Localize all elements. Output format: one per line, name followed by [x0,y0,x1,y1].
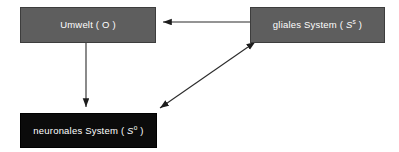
node-glial-system: gliales System ( Ss ) [250,7,385,43]
node-neuronal-system: neuronales System ( So ) [20,113,157,148]
edge-glial-neuronal-bidirectional [160,47,248,108]
node-umwelt: Umwelt ( O ) [20,7,156,43]
node-neuronal-system-label: neuronales System ( So ) [33,126,143,136]
node-umwelt-label: Umwelt ( O ) [60,20,116,30]
diagram-canvas: Umwelt ( O ) gliales System ( Ss ) neuro… [0,0,399,152]
node-glial-system-label: gliales System ( Ss ) [273,20,362,30]
